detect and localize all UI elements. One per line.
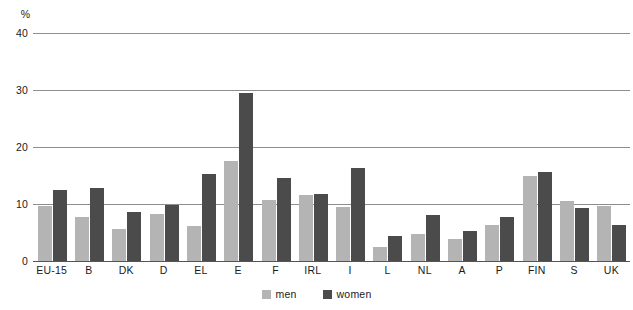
x-tick-label-nl: NL (418, 264, 432, 276)
bar-group (522, 33, 552, 261)
y-tick-label-10: 10 (16, 198, 28, 210)
x-tick-label-a: A (458, 264, 465, 276)
bar-men (150, 214, 164, 261)
x-tick-label-el: EL (194, 264, 207, 276)
bar-group (223, 33, 253, 261)
y-axis: 010203040 (0, 0, 28, 310)
bar-men (336, 207, 350, 261)
bar-women (239, 93, 253, 261)
legend-swatch-women (323, 290, 332, 299)
bar-women (575, 208, 589, 261)
y-tick-label-0: 0 (22, 255, 28, 267)
bar-group (261, 33, 291, 261)
bar-men (560, 201, 574, 261)
x-tick-label-p: P (496, 264, 503, 276)
bar-men (224, 161, 238, 261)
bar-women (612, 225, 626, 261)
bars-layer (33, 33, 630, 261)
x-tick-label-b: B (85, 264, 92, 276)
bar-men (299, 195, 313, 261)
bar-group (149, 33, 179, 261)
bar-chart: % 010203040 EU-15BDKDELEFIRLILNLAPFINSUK… (0, 0, 633, 310)
bar-women (165, 205, 179, 261)
x-tick-label-l: L (384, 264, 390, 276)
bar-group (372, 33, 402, 261)
legend-entry-women: women (323, 288, 372, 300)
legend-swatch-men (262, 290, 271, 299)
bar-women (388, 236, 402, 261)
bar-men (373, 247, 387, 261)
legend-label-women: women (337, 288, 372, 300)
legend-label-men: men (276, 288, 297, 300)
y-tick-label-30: 30 (16, 84, 28, 96)
bar-men (112, 229, 126, 261)
bar-group (559, 33, 589, 261)
bar-women (463, 231, 477, 261)
bar-men (411, 234, 425, 261)
bar-group (335, 33, 365, 261)
x-tick-label-irl: IRL (304, 264, 321, 276)
x-tick-label-d: D (160, 264, 168, 276)
bar-men (187, 226, 201, 261)
bar-women (351, 168, 365, 261)
bar-men (597, 206, 611, 261)
bar-women (538, 172, 552, 261)
bar-group (298, 33, 328, 261)
bar-group (447, 33, 477, 261)
chart-legend: menwomen (0, 288, 633, 300)
bar-group (37, 33, 67, 261)
bar-women (202, 174, 216, 261)
x-tick-label-e: E (235, 264, 242, 276)
bar-women (314, 194, 328, 261)
bar-group (484, 33, 514, 261)
bar-group (186, 33, 216, 261)
bar-women (127, 212, 141, 261)
bar-group (111, 33, 141, 261)
bar-men (262, 200, 276, 261)
x-axis: EU-15BDKDELEFIRLILNLAPFINSUK (33, 264, 630, 282)
bar-women (90, 188, 104, 261)
x-tick-label-eu-15: EU-15 (36, 264, 67, 276)
y-tick-label-20: 20 (16, 141, 28, 153)
bar-men (485, 225, 499, 261)
bar-group (596, 33, 626, 261)
bar-men (523, 176, 537, 262)
bar-men (448, 239, 462, 261)
x-tick-label-f: F (272, 264, 279, 276)
gridline-0 (33, 261, 630, 262)
bar-group (410, 33, 440, 261)
y-tick-label-40: 40 (16, 27, 28, 39)
bar-women (426, 215, 440, 261)
legend-entry-men: men (262, 288, 297, 300)
bar-women (53, 190, 67, 261)
bar-women (277, 178, 291, 261)
bar-group (74, 33, 104, 261)
x-tick-label-fin: FIN (528, 264, 546, 276)
bar-men (75, 217, 89, 261)
bar-women (500, 217, 514, 261)
x-tick-label-uk: UK (604, 264, 619, 276)
bar-men (38, 206, 52, 261)
x-tick-label-dk: DK (119, 264, 134, 276)
x-tick-label-i: I (349, 264, 352, 276)
x-tick-label-s: S (570, 264, 577, 276)
